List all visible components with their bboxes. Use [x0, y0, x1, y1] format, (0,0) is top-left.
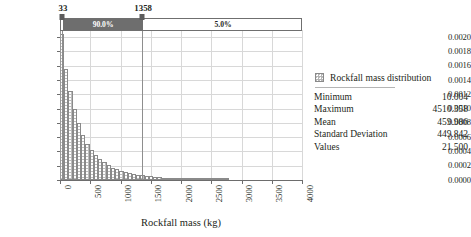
x-axis-tick-label: 0	[64, 185, 73, 189]
y-axis-tick-label: 0.0000	[415, 176, 471, 185]
x-axis-tick-label: 1000	[124, 185, 133, 202]
y-axis-tick-label: 0.0016	[415, 61, 471, 70]
gridline-vertical	[302, 30, 303, 180]
rockfall-mass-distribution-chart: 0.00000.00020.00040.00060.00080.00100.00…	[0, 0, 471, 237]
x-axis-title: Rockfall mass (kg)	[60, 217, 302, 228]
statistics-row: Maximum4510.358	[314, 103, 468, 115]
x-axis-tick-mark	[242, 180, 243, 184]
y-axis-tick-mark	[57, 109, 60, 110]
y-axis-tick-mark	[57, 66, 60, 67]
statistic-name: Standard Deviation	[314, 128, 418, 140]
percentile-marker-line-right	[142, 31, 143, 180]
y-axis-tick-mark	[57, 166, 60, 167]
statistics-row: Mean459.986	[314, 116, 468, 128]
y-axis-line	[60, 30, 61, 180]
statistic-value: 459.986	[418, 116, 468, 128]
statistics-row: Values21.500	[314, 141, 468, 153]
hatched-square-swatch-icon	[315, 73, 324, 82]
statistic-value: 4510.358	[418, 103, 468, 115]
statistics-table: Minimum10.004Maximum4510.358Mean459.986S…	[314, 91, 468, 153]
x-axis-tick-mark	[272, 180, 273, 184]
percentile-right-label: 5.0%	[143, 19, 303, 30]
plot-area	[60, 30, 302, 180]
percentile-marker-value-left: 33	[59, 3, 68, 13]
x-axis-tick-label: 1500	[154, 185, 163, 202]
y-axis-tick-mark	[57, 94, 60, 95]
x-axis-tick-label: 500	[94, 185, 103, 198]
x-axis-tick-mark	[90, 180, 91, 184]
x-axis-tick-label: 2000	[185, 185, 194, 202]
y-axis-tick-label: 0.0020	[415, 33, 471, 42]
statistic-name: Minimum	[314, 91, 418, 103]
x-axis-tick-label: 2500	[215, 185, 224, 202]
x-axis-tick-label: 3000	[245, 185, 254, 202]
legend-divider	[315, 87, 395, 88]
statistic-name: Mean	[314, 116, 418, 128]
y-axis-tick-mark	[57, 123, 60, 124]
percentile-marker-handle-right[interactable]	[140, 14, 145, 20]
percentile-left-label: 90.0%	[63, 19, 143, 30]
x-axis-tick-mark	[60, 180, 61, 184]
x-axis-tick-mark	[151, 180, 152, 184]
x-axis-tick-mark	[121, 180, 122, 184]
statistic-value: 10.004	[418, 91, 468, 103]
y-axis-tick-mark	[57, 51, 60, 52]
y-axis-tick-label: 0.0018	[415, 47, 471, 56]
statistics-row: Standard Deviation449.842	[314, 128, 468, 140]
y-axis-tick-mark	[57, 80, 60, 81]
percentile-band[interactable]: 90.0% 5.0%	[60, 18, 302, 31]
statistic-value: 449.842	[418, 128, 468, 140]
percentile-marker-value-right: 1358	[134, 3, 152, 13]
x-axis-tick-mark	[302, 180, 303, 184]
y-axis-tick-mark	[57, 151, 60, 152]
statistic-value: 21.500	[418, 141, 468, 153]
y-axis-tick-label: 0.0002	[415, 161, 471, 170]
x-axis-tick-label: 4000	[306, 185, 315, 202]
statistics-row: Minimum10.004	[314, 91, 468, 103]
x-axis-tick-mark	[181, 180, 182, 184]
legend-panel: Rockfall mass distribution Minimum10.004…	[314, 72, 468, 153]
x-axis-tick-mark	[211, 180, 212, 184]
legend-title-row: Rockfall mass distribution	[314, 72, 468, 83]
statistic-name: Maximum	[314, 103, 418, 115]
statistic-name: Values	[314, 141, 418, 153]
percentile-marker-handle-left[interactable]	[60, 14, 65, 20]
histogram-bars	[60, 30, 302, 180]
percentile-marker-line-left	[62, 31, 63, 180]
x-axis-tick-label: 3500	[275, 185, 284, 202]
y-axis-tick-mark	[57, 137, 60, 138]
legend-series-label: Rockfall mass distribution	[330, 72, 431, 83]
y-axis-tick-mark	[57, 37, 60, 38]
